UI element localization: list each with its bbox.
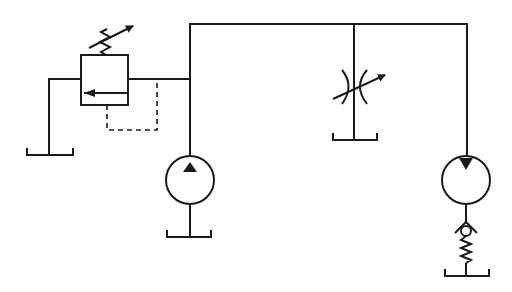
relief-valve-body	[81, 55, 128, 105]
main-supply-line	[190, 24, 467, 156]
check-valve-ball-icon	[461, 226, 471, 236]
flow-arrow-icon	[84, 89, 95, 97]
spring-icon	[461, 236, 471, 263]
pump	[166, 156, 214, 237]
pump-direction-triangle-icon	[183, 162, 197, 172]
check-valve-seat-icon	[455, 222, 477, 233]
throttle-left-arc	[342, 70, 349, 104]
check-valve	[455, 222, 477, 276]
relief-valve	[49, 26, 190, 155]
throttle-valve	[333, 24, 385, 140]
motor-direction-triangle-icon	[459, 158, 473, 170]
adjustable-arrow-icon	[89, 26, 133, 48]
motor	[442, 156, 490, 222]
relief-return-line	[49, 79, 81, 155]
hydraulic-circuit-diagram	[0, 0, 512, 292]
adjustable-arrow-icon	[333, 75, 385, 99]
